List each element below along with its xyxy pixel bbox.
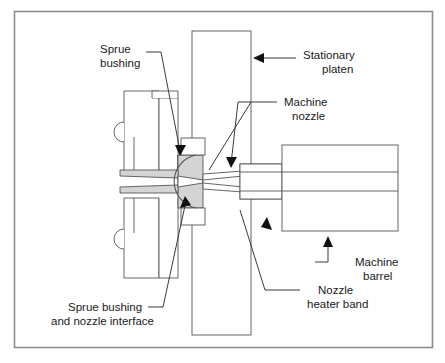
label-sprue-interface-line1: Sprue bushing	[68, 301, 142, 313]
label-sprue-interface-line2: and nozzle interface	[51, 315, 154, 327]
label-nozzle-heater-band-line2: heater band	[307, 298, 368, 310]
mold-plate-outer-upper	[124, 91, 159, 171]
injection-molding-diagram: Sprue bushing Stationary platen Machine …	[0, 0, 445, 363]
locating-ring-lower	[181, 208, 205, 225]
label-sprue-bushing-line1: Sprue	[100, 43, 131, 55]
label-stationary-platen-line2: platen	[322, 63, 353, 75]
label-machine-nozzle-line2: nozzle	[292, 110, 325, 122]
machine-barrel	[282, 145, 398, 231]
label-sprue-bushing-line2: bushing	[100, 57, 140, 69]
label-machine-barrel-line1: Machine	[355, 256, 398, 268]
label-nozzle-heater-band-line1: Nozzle	[318, 284, 353, 296]
nozzle-heater-band	[240, 164, 282, 199]
label-machine-nozzle-line1: Machine	[284, 96, 327, 108]
label-machine-barrel-line2: barrel	[363, 270, 392, 282]
mold-plate-inner-lower	[159, 198, 178, 278]
mold-plate-step-top	[152, 91, 178, 98]
mold-plate-outer-lower	[124, 198, 159, 278]
label-stationary-platen-line1: Stationary	[303, 49, 355, 61]
figure-root: Sprue bushing Stationary platen Machine …	[0, 0, 445, 363]
